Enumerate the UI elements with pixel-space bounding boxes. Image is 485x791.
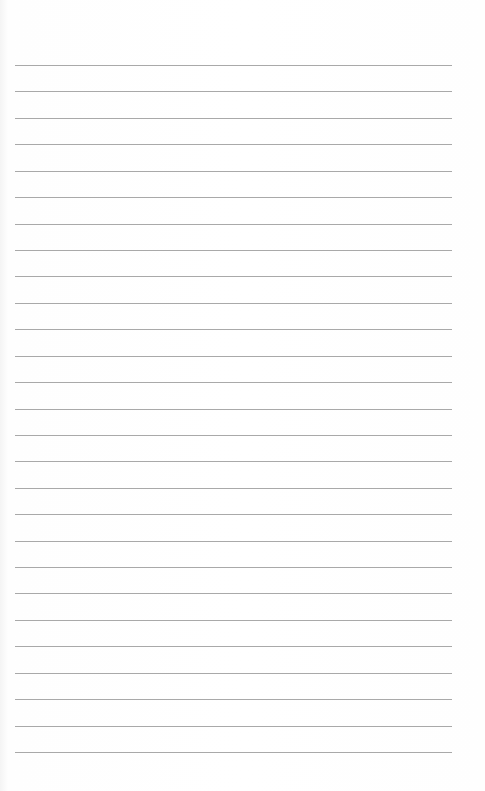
ruled-line — [15, 250, 452, 251]
ruled-line — [15, 699, 452, 700]
ruled-line — [15, 435, 452, 436]
ruled-line — [15, 144, 452, 145]
ruled-line — [15, 593, 452, 594]
ruled-line — [15, 356, 452, 357]
ruled-line — [15, 65, 452, 66]
ruled-line — [15, 541, 452, 542]
ruled-line — [15, 224, 452, 225]
ruled-line — [15, 461, 452, 462]
ruled-line — [15, 514, 452, 515]
ruled-line — [15, 488, 452, 489]
ruled-line — [15, 171, 452, 172]
ruled-line — [15, 276, 452, 277]
ruled-line — [15, 409, 452, 410]
ruled-line — [15, 197, 452, 198]
ruled-line — [15, 752, 452, 753]
ruled-line — [15, 673, 452, 674]
ruled-line — [15, 329, 452, 330]
ruled-line — [15, 303, 452, 304]
lined-paper-page — [0, 0, 485, 791]
ruled-line — [15, 567, 452, 568]
ruled-line — [15, 382, 452, 383]
ruled-line — [15, 91, 452, 92]
ruled-line — [15, 620, 452, 621]
ruled-line — [15, 646, 452, 647]
ruled-line — [15, 726, 452, 727]
ruled-line — [15, 118, 452, 119]
